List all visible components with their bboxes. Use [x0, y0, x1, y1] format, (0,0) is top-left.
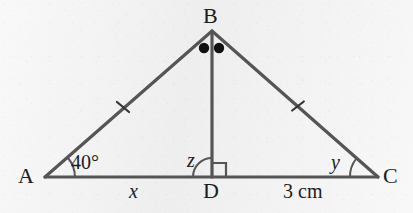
- angle-label-c-y: y: [331, 152, 340, 172]
- side-label-ad-x: x: [129, 181, 138, 201]
- angle-dot-right: [214, 43, 224, 53]
- angle-dot-left: [199, 43, 209, 53]
- vertex-label-d: D: [203, 180, 219, 202]
- vertex-label-b: B: [203, 5, 218, 27]
- angle-arc-c: [350, 159, 356, 177]
- vertex-label-c: C: [383, 165, 398, 187]
- segment-bc: [212, 31, 378, 177]
- angle-label-a-40deg: 40°: [71, 152, 99, 172]
- right-angle-marker-icon: [212, 163, 226, 177]
- vertex-label-a: A: [18, 165, 34, 187]
- angle-label-d-z: z: [187, 150, 195, 170]
- side-label-dc-3cm: 3 cm: [283, 181, 322, 201]
- angle-arc-d: [193, 158, 212, 177]
- diagram-canvas: B A C D 40° z y x 3 cm: [0, 0, 413, 213]
